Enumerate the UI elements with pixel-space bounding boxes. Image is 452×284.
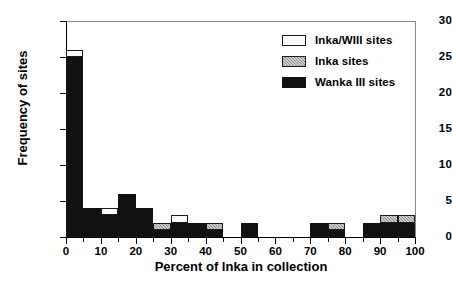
histogram-bar: [136, 208, 153, 237]
x-tick: [310, 238, 311, 244]
bar-segment: [380, 223, 397, 237]
legend-item: Wanka III sites: [282, 73, 395, 91]
x-tick-minor: [398, 238, 399, 242]
legend-item-label: Inka sites: [315, 55, 368, 67]
x-tick: [206, 238, 207, 244]
hatched-swatch-icon: [282, 56, 306, 67]
histogram-bar: [206, 223, 223, 237]
bar-segment: [398, 223, 415, 237]
histogram-bar: [101, 208, 118, 237]
legend-item: Inka/WIII sites: [282, 31, 395, 49]
histogram-bar: [310, 223, 327, 237]
x-tick: [275, 238, 276, 244]
y-axis-title: Frequency of sites: [15, 8, 30, 208]
bar-segment: [171, 223, 188, 237]
histogram-bar: [66, 50, 83, 237]
bar-segment: [380, 215, 397, 222]
bar-segment: [66, 57, 83, 237]
bar-segment: [66, 50, 83, 57]
bar-segment: [206, 230, 223, 237]
bar-segment: [206, 223, 223, 230]
x-tick-minor: [328, 238, 329, 242]
bar-segment: [153, 223, 170, 230]
bar-segment: [398, 215, 415, 222]
x-tick-minor: [258, 238, 259, 242]
histogram-bar: [328, 223, 345, 237]
bar-segment: [118, 194, 135, 237]
x-tick-minor: [118, 238, 119, 242]
bar-segment: [83, 208, 100, 237]
histogram-bar: [188, 223, 205, 237]
chart-legend: Inka/WIII sitesInka sitesWanka III sites: [282, 31, 395, 94]
x-tick-minor: [293, 238, 294, 242]
histogram-bar: [363, 223, 380, 237]
legend-item-label: Wanka III sites: [315, 76, 395, 88]
histogram-bar: [153, 223, 170, 237]
x-tick-minor: [83, 238, 84, 242]
x-tick: [241, 238, 242, 244]
legend-item: Inka sites: [282, 52, 395, 70]
histogram-bar: [398, 215, 415, 237]
legend-item-label: Inka/WIII sites: [315, 34, 393, 46]
dark-swatch-icon: [282, 77, 306, 88]
x-tick: [345, 238, 346, 244]
x-tick-minor: [188, 238, 189, 242]
bar-segment: [101, 215, 118, 237]
bar-segment: [328, 223, 345, 230]
x-tick: [101, 238, 102, 244]
histogram-bar: [171, 215, 188, 237]
x-tick-minor: [363, 238, 364, 242]
x-axis-title: Percent of Inka in collection: [66, 259, 416, 274]
bar-segment: [310, 223, 327, 237]
light-swatch-icon: [282, 35, 306, 46]
bar-segment: [136, 208, 153, 237]
bar-segment: [241, 223, 258, 237]
x-tick-label: 100: [395, 245, 435, 257]
bar-segment: [153, 230, 170, 237]
bar-segment: [171, 215, 188, 222]
x-tick: [136, 238, 137, 244]
histogram-bar: [118, 194, 135, 237]
histogram-bar: [241, 223, 258, 237]
histogram-chart: 051015202530 0102030405060708090100 Freq…: [0, 0, 452, 284]
histogram-bar: [83, 208, 100, 237]
x-tick: [171, 238, 172, 244]
x-tick-minor: [153, 238, 154, 242]
bar-segment: [328, 230, 345, 237]
bar-segment: [188, 223, 205, 237]
x-tick: [66, 238, 67, 244]
bar-segment: [363, 223, 380, 237]
bar-segment: [101, 208, 118, 215]
x-tick: [415, 238, 416, 244]
histogram-bar: [380, 215, 397, 237]
x-tick: [380, 238, 381, 244]
x-tick-minor: [223, 238, 224, 242]
